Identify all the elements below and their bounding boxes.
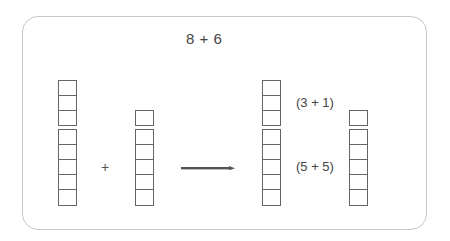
label-5-plus-5: (5 + 5)	[296, 159, 334, 174]
unit-block	[263, 96, 280, 111]
block-group-5	[135, 129, 154, 206]
unit-block	[350, 190, 367, 205]
unit-block	[263, 145, 280, 160]
plus-sign: +	[101, 159, 109, 175]
unit-block	[136, 175, 153, 190]
block-group-5	[58, 129, 77, 206]
unit-block	[136, 111, 153, 126]
unit-block	[59, 111, 76, 126]
unit-block	[136, 145, 153, 160]
unit-block	[263, 130, 280, 145]
unit-block	[350, 175, 367, 190]
unit-block	[263, 160, 280, 175]
block-group-5	[349, 129, 368, 206]
unit-block	[59, 190, 76, 205]
unit-block	[263, 190, 280, 205]
unit-block	[136, 160, 153, 175]
stack-6-before	[135, 110, 154, 206]
unit-block	[350, 160, 367, 175]
unit-block	[263, 175, 280, 190]
unit-block	[59, 175, 76, 190]
unit-block	[350, 111, 367, 126]
block-group-1	[135, 110, 154, 126]
label-3-plus-1: (3 + 1)	[296, 95, 334, 110]
unit-block	[59, 81, 76, 96]
unit-block	[59, 160, 76, 175]
unit-block	[350, 145, 367, 160]
right-arrow-icon	[181, 166, 235, 170]
unit-block	[136, 130, 153, 145]
block-group-3	[58, 80, 77, 126]
unit-block	[263, 81, 280, 96]
block-group-3	[262, 80, 281, 126]
unit-block	[263, 111, 280, 126]
stack-8-after	[262, 80, 281, 206]
unit-block	[59, 145, 76, 160]
unit-block	[59, 130, 76, 145]
unit-block	[59, 96, 76, 111]
stack-6-after	[349, 110, 368, 206]
unit-block	[136, 190, 153, 205]
unit-block	[350, 130, 367, 145]
block-group-5	[262, 129, 281, 206]
stack-8-before	[58, 80, 77, 206]
equation-title: 8 + 6	[186, 30, 222, 47]
block-group-1	[349, 110, 368, 126]
